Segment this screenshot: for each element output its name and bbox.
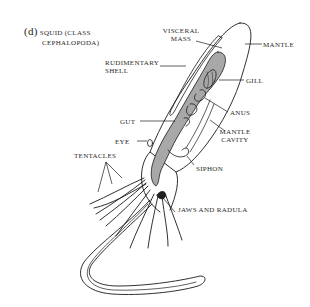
title-line-1: SQUID (CLASS	[40, 29, 91, 37]
leader-jaws	[163, 198, 175, 212]
figure-title: (d) SQUID (CLASS	[24, 27, 91, 37]
label-jaws-and-radula: JAWS AND RADULA	[178, 206, 248, 214]
squid-diagram: (d) SQUID (CLASS CEPHALOPODA) VISCERAL M…	[0, 0, 310, 307]
panel-letter: (d)	[24, 25, 38, 37]
label-eye: EYE	[115, 138, 130, 146]
label-tentacles: TENTACLES	[74, 152, 116, 160]
label-gut: GUT	[120, 118, 135, 126]
title-line-2: CEPHALOPODA)	[42, 39, 99, 47]
jaws-and-radula	[157, 191, 166, 199]
long-tentacle	[80, 200, 205, 295]
leader-tentacles-1	[98, 162, 106, 192]
label-visceral-mass: VISCERAL MASS	[162, 27, 200, 43]
label-rudimentary-shell: RUDIMENTARY SHELL	[105, 59, 159, 75]
label-anus: ANUS	[230, 109, 250, 117]
label-mantle-cavity: MANTLE CAVITY	[218, 128, 252, 144]
leader-anus	[205, 98, 228, 112]
eye	[148, 140, 153, 147]
label-siphon: SIPHON	[196, 165, 223, 173]
label-gill: GILL	[246, 77, 263, 85]
label-mantle: MANTLE	[263, 41, 294, 49]
